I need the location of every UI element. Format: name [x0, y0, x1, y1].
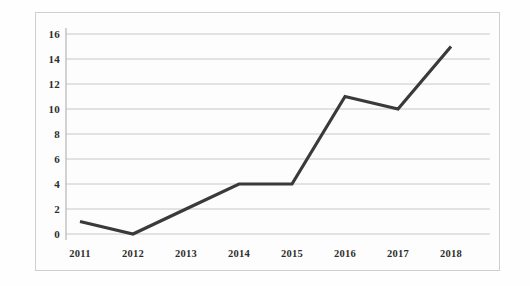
x-tick-2018: 2018 [428, 248, 474, 259]
y-tick-4: 4 [34, 178, 60, 190]
y-tick-6: 6 [34, 153, 60, 165]
y-tick-0: 0 [34, 228, 60, 240]
data-series-line [80, 47, 451, 235]
y-tick-8: 8 [34, 128, 60, 140]
x-tick-2012: 2012 [110, 248, 156, 259]
gridlines [66, 34, 490, 234]
y-tick-14: 14 [34, 53, 60, 65]
x-tick-2015: 2015 [269, 248, 315, 259]
line-chart-figure: 16 14 12 10 8 6 4 2 0 2011 2012 2013 201… [0, 0, 530, 286]
x-tick-2011: 2011 [57, 248, 103, 259]
x-tick-2013: 2013 [163, 248, 209, 259]
y-tick-2: 2 [34, 203, 60, 215]
y-tick-10: 10 [34, 103, 60, 115]
x-tick-2014: 2014 [216, 248, 262, 259]
x-tick-2016: 2016 [322, 248, 368, 259]
chart-plot-area [0, 0, 530, 286]
y-tick-16: 16 [34, 28, 60, 40]
y-tick-12: 12 [34, 78, 60, 90]
x-tick-2017: 2017 [375, 248, 421, 259]
